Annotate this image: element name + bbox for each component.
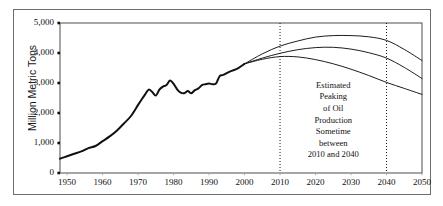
y-tick-mark [57,82,60,85]
x-tick-label: 1950 [47,177,87,187]
annotation-line-4: Sometime [278,126,388,138]
annotation-line-0: Estimated [278,80,388,92]
x-tick-label: 2000 [225,177,265,187]
x-tick-label: 2030 [331,177,371,187]
x-tick-label: 2040 [367,177,407,187]
series-line-0 [60,64,245,159]
x-tick-label: 2050 [402,177,442,187]
series-line-2 [245,47,422,78]
y-tick-label: 3,000 [34,77,54,87]
chart-screenshot: Million Metric Tons 01,0002,0003,0004,00… [0,0,443,206]
y-tick-label: 5,000 [34,17,54,27]
x-tick-label: 1970 [118,177,158,187]
x-tick-label: 2010 [260,177,300,187]
annotation-line-3: Production [278,115,388,127]
y-tick-mark [57,172,60,175]
annotation-line-1: Peaking [278,91,388,103]
y-tick-mark [57,52,60,55]
annotation-line-6: 2010 and 2040 [278,149,388,161]
y-tick-label: 0 [50,167,55,177]
peak-oil-annotation: EstimatedPeakingof OilProductionSometime… [278,80,388,161]
x-tick-label: 1980 [154,177,194,187]
x-tick-label: 1990 [189,177,229,187]
annotation-line-5: between [278,138,388,150]
y-tick-label: 4,000 [34,47,54,57]
chart-frame: Million Metric Tons 01,0002,0003,0004,00… [13,9,431,195]
x-tick-label: 1960 [83,177,123,187]
y-tick-label: 2,000 [34,107,54,117]
series-line-1 [245,35,422,63]
y-tick-mark [57,112,60,115]
y-tick-label: 1,000 [34,137,54,147]
y-tick-mark [57,142,60,145]
y-tick-mark [57,22,60,25]
annotation-line-2: of Oil [278,103,388,115]
x-tick-label: 2020 [296,177,336,187]
